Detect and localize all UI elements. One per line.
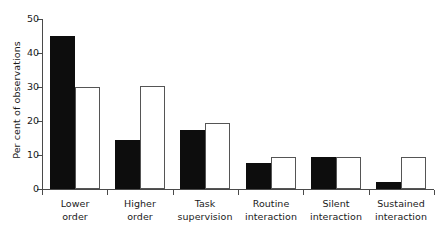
bar-group bbox=[50, 19, 100, 189]
bar-open bbox=[205, 123, 230, 189]
y-tick-label: 30 bbox=[27, 80, 39, 93]
y-axis-title: Per cent of observations bbox=[10, 10, 24, 190]
x-axis-label-line: Sustained bbox=[363, 197, 439, 210]
y-tick-label: 0 bbox=[33, 182, 39, 195]
bar-filled bbox=[311, 157, 336, 189]
bar-open bbox=[75, 87, 100, 189]
y-tick-label: 10 bbox=[27, 148, 39, 161]
y-tick-label: 50 bbox=[27, 12, 39, 25]
y-tick-label: 20 bbox=[27, 114, 39, 127]
bar-group bbox=[311, 19, 361, 189]
bar-group bbox=[115, 19, 165, 189]
x-tick-mark bbox=[434, 190, 435, 195]
bar-filled bbox=[180, 130, 205, 190]
x-axis-label-line: supervision bbox=[167, 210, 243, 223]
bar-group bbox=[180, 19, 230, 189]
bar-open bbox=[271, 157, 296, 189]
y-tick-label: 40 bbox=[27, 46, 39, 59]
bar-filled bbox=[246, 163, 271, 189]
x-axis-label-line: Task bbox=[167, 197, 243, 210]
y-axis-line bbox=[42, 19, 43, 190]
bar-filled bbox=[376, 182, 401, 189]
bar-open bbox=[336, 157, 361, 189]
x-tick-mark bbox=[238, 190, 239, 195]
bar-open bbox=[140, 86, 165, 189]
bar-filled bbox=[50, 36, 75, 189]
x-tick-mark bbox=[303, 190, 304, 195]
bar-chart: Per cent of observations 01020304050 Low… bbox=[0, 0, 446, 252]
bar-filled bbox=[115, 140, 140, 189]
plot-area: 01020304050 bbox=[42, 19, 434, 190]
x-axis-label: Tasksupervision bbox=[167, 197, 243, 223]
bar-open bbox=[401, 157, 426, 189]
x-tick-mark bbox=[173, 190, 174, 195]
x-axis-label-line: interaction bbox=[363, 210, 439, 223]
bar-group bbox=[376, 19, 426, 189]
bar-group bbox=[246, 19, 296, 189]
x-tick-mark bbox=[369, 190, 370, 195]
x-tick-mark bbox=[107, 190, 108, 195]
x-axis-label: Sustainedinteraction bbox=[363, 197, 439, 223]
x-axis-labels: LowerorderHigherorderTasksupervisionRout… bbox=[42, 197, 434, 237]
x-tick-mark bbox=[42, 190, 43, 195]
